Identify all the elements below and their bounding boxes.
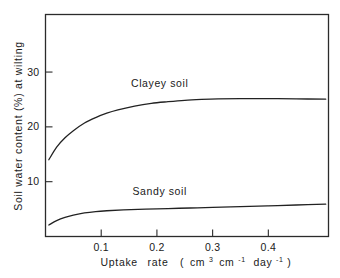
- plot-frame: [46, 15, 329, 237]
- x-tick-label: 0.1: [93, 241, 109, 253]
- x-axis-tick-labels: 0.10.20.30.4: [93, 241, 276, 253]
- series-label: Clayey soil: [131, 77, 188, 89]
- x-title-unit3: day: [253, 256, 272, 268]
- x-title-word-2: rate: [148, 256, 169, 268]
- x-tick-label: 0.2: [149, 241, 165, 253]
- x-tick-label: 0.4: [261, 241, 277, 253]
- curve-annotations: Clayey soilSandy soil: [131, 77, 188, 197]
- y-axis-title: Soil water content (%) at wilting: [12, 41, 24, 211]
- x-axis-ticks: [101, 230, 268, 237]
- y-axis-tick-labels: 102030: [27, 66, 39, 188]
- x-tick-label: 0.3: [205, 241, 221, 253]
- series-label: Sandy soil: [132, 185, 186, 197]
- x-title-unit1-exponent: 3: [209, 256, 214, 263]
- x-title-unit1: cm: [190, 256, 205, 268]
- x-title-open-paren: (: [180, 256, 184, 268]
- data-curves: [49, 99, 326, 225]
- series-line: [49, 99, 326, 160]
- x-title-close-paren: ): [287, 256, 291, 268]
- series-line: [49, 204, 326, 225]
- y-tick-label: 20: [27, 120, 39, 132]
- y-tick-label: 30: [27, 66, 39, 78]
- x-title-word-1: Uptake: [100, 256, 137, 268]
- chart-figure: 102030 0.10.20.30.4 Clayey soilSandy soi…: [0, 0, 340, 278]
- y-axis-ticks: [46, 72, 53, 182]
- x-title-unit2-exponent: -1: [238, 256, 246, 263]
- x-axis-title: Uptake rate ( cm 3 cm -1 day -1 ): [100, 252, 291, 268]
- y-tick-label: 10: [27, 175, 39, 187]
- x-title-unit3-exponent: -1: [276, 256, 284, 263]
- x-title-unit2: cm: [219, 256, 234, 268]
- plot-svg: 102030 0.10.20.30.4 Clayey soilSandy soi…: [0, 0, 340, 278]
